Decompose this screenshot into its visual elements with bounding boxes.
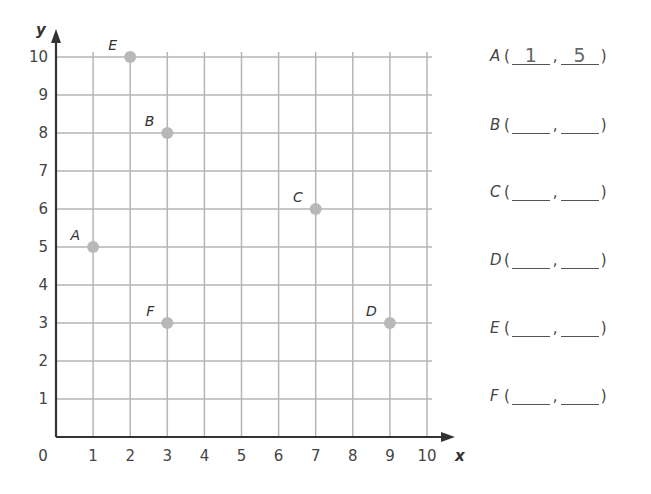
open-paren: ( bbox=[504, 251, 510, 269]
y-tick-label: 10 bbox=[29, 48, 48, 66]
y-tick-label: 3 bbox=[38, 314, 48, 332]
comma: , bbox=[553, 47, 558, 65]
open-paren: ( bbox=[504, 319, 510, 337]
point-f bbox=[161, 317, 173, 329]
point-label: A bbox=[70, 227, 81, 243]
point-letter: E bbox=[490, 319, 504, 337]
y-answer-field[interactable]: 5 bbox=[561, 46, 599, 65]
y-tick-label: 4 bbox=[38, 276, 48, 294]
comma: , bbox=[553, 387, 558, 405]
x-tick-label: 3 bbox=[163, 447, 173, 465]
x-tick-label: 4 bbox=[200, 447, 210, 465]
y-answer-field[interactable] bbox=[561, 250, 599, 269]
x-tick-label: 8 bbox=[348, 447, 358, 465]
y-tick-label: 8 bbox=[38, 124, 48, 142]
point-label: D bbox=[366, 303, 377, 319]
close-paren: ) bbox=[601, 251, 607, 269]
point-letter: F bbox=[490, 387, 504, 405]
point-label: F bbox=[146, 303, 155, 319]
x-answer-field[interactable] bbox=[512, 318, 550, 337]
point-label: C bbox=[293, 189, 303, 205]
point-b bbox=[161, 127, 173, 139]
comma: , bbox=[553, 251, 558, 269]
point-label: B bbox=[145, 113, 155, 129]
x-answer-field[interactable] bbox=[512, 250, 550, 269]
open-paren: ( bbox=[504, 183, 510, 201]
answer-row-f: F(,) bbox=[490, 386, 607, 410]
y-axis-label: y bbox=[36, 21, 47, 39]
close-paren: ) bbox=[601, 116, 607, 134]
comma: , bbox=[553, 183, 558, 201]
x-tick-label: 0 bbox=[38, 447, 48, 465]
comma: , bbox=[553, 319, 558, 337]
y-axis-arrow-icon bbox=[51, 29, 61, 43]
point-letter: C bbox=[490, 183, 504, 201]
point-d bbox=[384, 317, 396, 329]
x-answer-field[interactable] bbox=[512, 386, 550, 405]
y-answer-field[interactable] bbox=[561, 115, 599, 134]
y-tick-label: 2 bbox=[38, 352, 48, 370]
y-tick-label: 5 bbox=[38, 238, 48, 256]
y-tick-label: 6 bbox=[38, 200, 48, 218]
x-tick-label: 5 bbox=[237, 447, 247, 465]
x-tick-label: 6 bbox=[274, 447, 284, 465]
y-answer-field[interactable] bbox=[561, 182, 599, 201]
point-letter: D bbox=[490, 251, 504, 269]
point-e bbox=[124, 51, 136, 63]
answer-row-e: E(,) bbox=[490, 318, 607, 342]
comma: , bbox=[553, 116, 558, 134]
answer-row-c: C(,) bbox=[490, 182, 607, 206]
open-paren: ( bbox=[504, 387, 510, 405]
point-letter: A bbox=[490, 47, 504, 65]
y-tick-label: 1 bbox=[38, 390, 48, 408]
point-label: E bbox=[108, 37, 117, 53]
x-axis-arrow-icon bbox=[441, 432, 455, 442]
y-tick-label: 9 bbox=[38, 86, 48, 104]
answer-row-a: A(1,5) bbox=[490, 46, 607, 70]
answer-row-b: B(,) bbox=[490, 115, 607, 139]
point-c bbox=[310, 203, 322, 215]
x-tick-label: 2 bbox=[125, 447, 135, 465]
y-tick-label: 7 bbox=[38, 162, 48, 180]
x-tick-label: 10 bbox=[417, 447, 436, 465]
close-paren: ) bbox=[601, 47, 607, 65]
open-paren: ( bbox=[504, 116, 510, 134]
x-answer-field[interactable] bbox=[512, 182, 550, 201]
x-tick-label: 1 bbox=[88, 447, 98, 465]
tick-labels: 01234567891012345678910 bbox=[29, 48, 437, 465]
x-tick-label: 7 bbox=[311, 447, 321, 465]
answer-row-d: D(,) bbox=[490, 250, 607, 274]
point-a bbox=[87, 241, 99, 253]
close-paren: ) bbox=[601, 387, 607, 405]
x-tick-label: 9 bbox=[385, 447, 395, 465]
close-paren: ) bbox=[601, 319, 607, 337]
grid-lines bbox=[56, 52, 432, 437]
close-paren: ) bbox=[601, 183, 607, 201]
x-answer-field[interactable]: 1 bbox=[512, 46, 550, 65]
y-answer-field[interactable] bbox=[561, 318, 599, 337]
x-axis-label: x bbox=[454, 447, 466, 465]
point-letter: B bbox=[490, 116, 504, 134]
coordinate-grid: xy 01234567891012345678910 ABCDEF bbox=[0, 0, 480, 494]
open-paren: ( bbox=[504, 47, 510, 65]
x-answer-field[interactable] bbox=[512, 115, 550, 134]
y-answer-field[interactable] bbox=[561, 386, 599, 405]
